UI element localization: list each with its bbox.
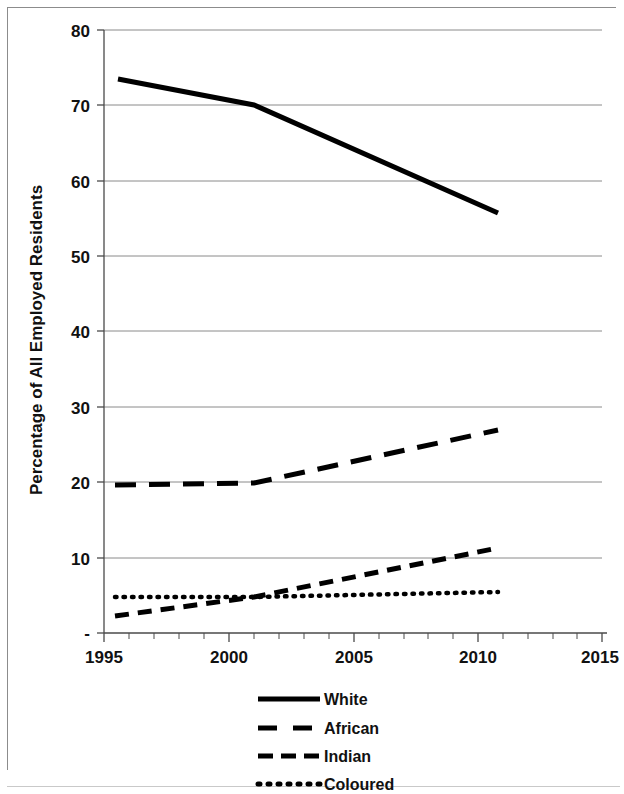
legend-item-african[interactable]: African (258, 720, 379, 737)
legend: White African Indian Coloured (258, 691, 394, 793)
legend-label-african: African (324, 720, 379, 737)
line-chart: Percentage of All Employed Residents (0, 0, 624, 794)
series-line-white (118, 79, 498, 213)
legend-label-coloured: Coloured (324, 776, 394, 793)
series-line-african (115, 430, 498, 485)
y-axis-title-text: Percentage of All Employed Residents (27, 185, 46, 495)
y-tick-label-60: 60 (71, 173, 90, 192)
series-lines (115, 79, 498, 616)
y-tick-label-50: 50 (71, 248, 90, 267)
x-tick-label-2015: 2015 (581, 648, 619, 667)
y-tick-label-30: 30 (71, 399, 90, 418)
x-tick-label-1995: 1995 (85, 648, 123, 667)
y-tick-labels: 80 70 60 50 40 30 20 10 - (71, 22, 90, 643)
y-tick-label-80: 80 (71, 22, 90, 41)
legend-label-white: White (324, 691, 368, 708)
y-tick-label-0: - (84, 624, 90, 643)
legend-label-indian: Indian (324, 748, 371, 765)
y-axis-title: Percentage of All Employed Residents (27, 185, 46, 495)
y-axis (97, 30, 104, 633)
x-tick-label-2010: 2010 (459, 648, 497, 667)
gridlines (104, 30, 602, 558)
legend-item-coloured[interactable]: Coloured (258, 776, 394, 793)
y-tick-label-70: 70 (71, 97, 90, 116)
x-minor-ticks (129, 633, 577, 639)
y-tick-label-10: 10 (71, 550, 90, 569)
x-tick-labels: 1995 2000 2005 2010 2015 (85, 648, 619, 667)
legend-item-white[interactable]: White (258, 691, 368, 708)
legend-item-indian[interactable]: Indian (258, 748, 371, 765)
chart-page: Percentage of All Employed Residents (0, 0, 624, 794)
x-tick-label-2000: 2000 (210, 648, 248, 667)
y-tick-label-40: 40 (71, 323, 90, 342)
x-axis (104, 633, 607, 642)
series-line-coloured (115, 592, 498, 597)
y-tick-label-20: 20 (71, 474, 90, 493)
x-tick-label-2005: 2005 (335, 648, 373, 667)
